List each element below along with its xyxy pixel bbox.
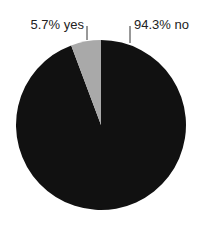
label-yes: 5.7% yes <box>31 17 85 32</box>
pie-slice-no <box>16 40 186 210</box>
label-no: 94.3% no <box>134 17 189 32</box>
pie-chart: 5.7% yes 94.3% no <box>0 0 199 225</box>
